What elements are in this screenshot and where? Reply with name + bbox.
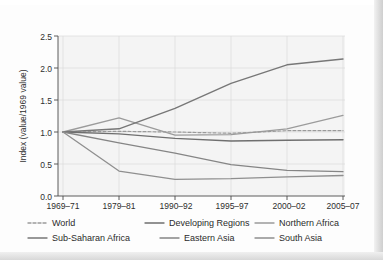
scan-edge-bottom <box>0 252 383 260</box>
scan-edge-right <box>374 0 383 260</box>
x-tick-label-1990-92: 1990–92 <box>159 201 192 211</box>
legend-label-world: World <box>52 218 75 228</box>
legend-label-sub-saharan-africa: Sub-Saharan Africa <box>52 233 130 243</box>
x-tick-label-1969-71: 1969–71 <box>46 201 79 211</box>
legend-label-northern-africa: Northern Africa <box>279 218 339 228</box>
legend-label-eastern-asia: Eastern Asia <box>184 233 235 243</box>
y-tick-label-0.0: 0.0 <box>40 192 52 202</box>
y-axis-title: Index (value/1969 value) <box>18 69 28 162</box>
x-tick-label-2000-02: 2000–02 <box>272 201 305 211</box>
plot-area-background <box>58 36 345 196</box>
x-tick-label-2005-07: 2005–07 <box>326 201 359 211</box>
y-tick-label-2.0: 2.0 <box>40 64 52 74</box>
y-tick-label-1.0: 1.0 <box>40 128 52 138</box>
y-axis-tick-marks <box>54 36 58 196</box>
chart-figure: 2.5 2.0 1.5 1.0 0.5 0.0 Index (value/196… <box>0 0 383 260</box>
scan-edge-top <box>0 0 383 5</box>
x-tick-label-1995-97: 1995–97 <box>215 201 248 211</box>
y-tick-label-1.5: 1.5 <box>40 96 52 106</box>
line-chart: 2.5 2.0 1.5 1.0 0.5 0.0 Index (value/196… <box>0 0 383 260</box>
y-tick-label-2.5: 2.5 <box>40 32 52 42</box>
legend-label-developing-regions: Developing Regions <box>169 218 250 228</box>
x-axis-tick-marks <box>63 196 343 200</box>
y-tick-label-0.5: 0.5 <box>40 160 52 170</box>
x-tick-label-1979-81: 1979–81 <box>102 201 135 211</box>
legend-label-south-asia: South Asia <box>279 233 322 243</box>
